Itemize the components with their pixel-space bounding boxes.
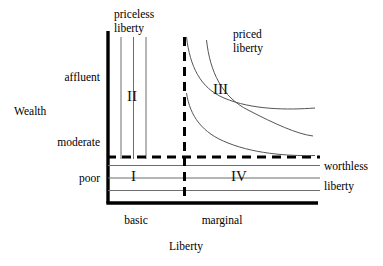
annotation-priceless-liberty-line2: liberty [114, 22, 144, 36]
y-tick-label-affluent: affluent [28, 71, 100, 84]
y-tick-label-poor: poor [28, 172, 100, 185]
x-tick-label-marginal: marginal [190, 214, 254, 227]
annotation-priceless-liberty-line1: priceless [114, 8, 154, 22]
x-axis-title: Liberty [150, 240, 222, 253]
annotation-worthless-liberty-line2: liberty [324, 180, 354, 194]
priced-liberty-curve-3 [187, 93, 316, 156]
wealth-liberty-quadrant-figure: affluent moderate poor Wealth basic marg… [0, 0, 383, 266]
annotation-priced-liberty-line1: priced [233, 28, 262, 42]
annotation-priced-liberty-line2: liberty [233, 42, 263, 56]
quadrant-label-II: II [127, 89, 137, 104]
quadrant-label-III: III [213, 82, 228, 97]
y-axis-title: Wealth [14, 105, 46, 118]
annotation-worthless-liberty-line1: worthless [324, 160, 368, 174]
quadrant-label-IV: IV [231, 169, 247, 184]
y-tick-label-moderate: moderate [28, 136, 100, 149]
quadrant-label-I: I [131, 169, 136, 184]
x-tick-label-basic: basic [108, 214, 164, 227]
